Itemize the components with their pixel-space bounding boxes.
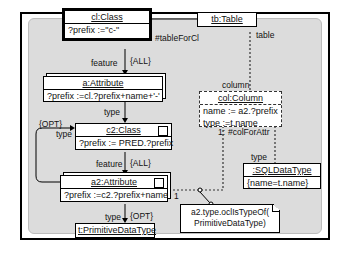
checkbox-icon xyxy=(154,178,164,188)
node-title: t:PrimitiveDataType xyxy=(76,224,154,236)
node-title: c2:Class xyxy=(76,124,171,137)
column-node-col[interactable]: col:Column name := a2.?prefix type :=t.n… xyxy=(199,91,282,127)
node-title: a2:Attribute xyxy=(61,176,167,189)
label-tableForCl: #tableForCl xyxy=(155,33,199,43)
checkbox-icon xyxy=(158,126,168,136)
node-title: a:Attribute xyxy=(44,77,162,90)
node-body: ?prefix := PRED.?prefix xyxy=(76,137,171,149)
label-column: column xyxy=(222,80,249,90)
node-title: cl:Class xyxy=(65,11,149,24)
label-one-a: 1: xyxy=(218,127,225,137)
label-type-loop: type xyxy=(56,129,72,139)
note-line-2: PrimitiveDataType) xyxy=(185,218,275,229)
sqldatatype-node[interactable]: :SQLDataType {name=t.name} xyxy=(243,163,321,189)
label-colForAttr: #colForAttr xyxy=(228,127,270,137)
table-node-tb[interactable]: tb:Table xyxy=(197,12,257,27)
node-body: ?prefix :=c2.?prefix+name xyxy=(61,189,167,201)
constraint-note: a2.type.oclIsTypeOf( PrimitiveDataType) xyxy=(180,204,280,233)
node-body: ?prefix :=cl.?prefix+name+'-' xyxy=(44,90,162,102)
node-body-name: name := a2.?prefix xyxy=(200,105,281,117)
label-all-2: {ALL} xyxy=(130,158,151,168)
label-table: table xyxy=(256,30,274,40)
label-one-b: 1 xyxy=(174,191,179,201)
label-opt-1: {OPT} xyxy=(39,119,62,129)
node-title: col:Column xyxy=(200,92,281,105)
label-opt-2: {OPT} xyxy=(130,211,153,221)
label-type-2: type xyxy=(105,212,121,222)
attribute-node-a[interactable]: a:Attribute ?prefix :=cl.?prefix+name+'-… xyxy=(43,76,163,102)
node-title: :SQLDataType xyxy=(244,164,320,177)
node-body: {name=t.name} xyxy=(244,177,320,189)
label-type-3: type xyxy=(251,152,267,162)
label-all-1: {ALL} xyxy=(130,56,151,66)
class-node-cl[interactable]: cl:Class ?prefix :="c-" xyxy=(62,8,152,41)
label-feature-2: feature xyxy=(96,159,122,169)
node-body: ?prefix :="c-" xyxy=(65,24,149,36)
class-node-c2[interactable]: c2:Class ?prefix := PRED.?prefix xyxy=(75,123,172,150)
label-feature-1: feature xyxy=(91,58,117,68)
node-title: tb:Table xyxy=(198,13,256,25)
label-type-1: type xyxy=(104,107,120,117)
type-node-t[interactable]: t:PrimitiveDataType xyxy=(75,223,155,238)
note-line-1: a2.type.oclIsTypeOf( xyxy=(185,207,275,218)
attribute-node-a2[interactable]: a2:Attribute ?prefix :=c2.?prefix+name xyxy=(60,175,168,202)
